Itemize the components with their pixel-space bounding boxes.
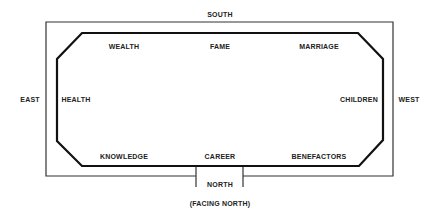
label-west: WEST xyxy=(398,96,419,103)
area-career: CAREER xyxy=(205,153,236,160)
area-benefactors: BENEFACTORS xyxy=(292,153,347,160)
area-wealth: WEALTH xyxy=(109,43,140,50)
area-children: CHILDREN xyxy=(340,96,378,103)
label-east: EAST xyxy=(20,96,39,103)
bagua-octagon xyxy=(57,33,383,166)
label-south: SOUTH xyxy=(207,11,233,18)
area-fame: FAME xyxy=(210,43,230,50)
area-health: HEALTH xyxy=(61,96,90,103)
label-facing: (FACING NORTH) xyxy=(190,200,251,207)
area-knowledge: KNOWLEDGE xyxy=(100,153,148,160)
area-marriage: MARRIAGE xyxy=(299,43,339,50)
label-north: NORTH xyxy=(207,181,233,188)
